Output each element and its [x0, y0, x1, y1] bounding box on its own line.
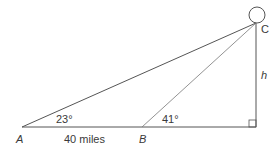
label-a: A — [16, 134, 23, 145]
label-ab-length: 40 miles — [64, 134, 105, 145]
label-height: h — [261, 70, 267, 81]
line-bc — [142, 23, 256, 127]
triangle-diagram — [0, 0, 279, 148]
label-b: B — [139, 134, 146, 145]
label-c: C — [261, 24, 269, 35]
label-angle-b: 41° — [162, 114, 179, 125]
right-angle-marker — [249, 120, 256, 127]
balloon-circle — [249, 7, 265, 23]
line-ac — [22, 23, 256, 127]
label-angle-a: 23° — [56, 114, 73, 125]
